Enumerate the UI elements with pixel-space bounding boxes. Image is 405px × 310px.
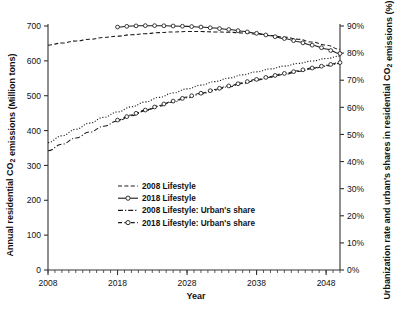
legend-label: 2018 Lifestyle: Urban's share (142, 219, 255, 228)
y-axis-left-tick-label: 600 (27, 56, 41, 66)
series-marker (171, 99, 175, 103)
series-marker (190, 25, 194, 29)
series-marker (199, 25, 203, 29)
series-marker (153, 105, 157, 109)
y-axis-right-tick-label: 0% (347, 265, 360, 275)
x-axis-title: Year (186, 291, 206, 301)
series-marker (273, 35, 277, 39)
y-axis-right-tick-label: 30% (347, 184, 364, 194)
series-marker (162, 102, 166, 106)
series-marker (199, 91, 203, 95)
series-marker (181, 96, 185, 100)
y-axis-right-tick-label: 80% (347, 48, 364, 58)
y-axis-left-tick-label: 100 (27, 230, 41, 240)
series-marker (181, 24, 185, 28)
series-marker (125, 24, 129, 28)
series-marker (320, 46, 324, 50)
legend-marker-sample (126, 221, 130, 225)
series-marker (116, 118, 120, 122)
x-tick-label: 2018 (108, 278, 127, 288)
series-marker (190, 94, 194, 98)
y-axis-left-tick-label: 0 (36, 265, 41, 275)
legend-label: 2008 Lifestyle (142, 182, 196, 191)
series-marker (282, 72, 286, 76)
y-axis-left-tick-label: 500 (27, 91, 41, 101)
y-axis-right-tick-label: 20% (347, 211, 364, 221)
series-marker (255, 78, 259, 82)
y-axis-right-tick-label: 10% (347, 238, 364, 248)
y-axis-right-tick-label: 60% (347, 103, 364, 113)
emissions-urbanization-line-chart: 20082018202820382048 0100200300400500600… (0, 0, 405, 310)
series-marker (208, 89, 212, 93)
series-marker (218, 27, 222, 31)
y-axis-left-tick-label: 400 (27, 126, 41, 136)
series-marker (218, 86, 222, 90)
y-axis-left-tick-label: 200 (27, 195, 41, 205)
series-marker (162, 24, 166, 28)
series-marker (208, 26, 212, 30)
series-marker (153, 24, 157, 28)
x-tick-label: 2008 (39, 278, 58, 288)
y-axis-left-tick-label: 300 (27, 161, 41, 171)
y-axis-left-tick-label: 700 (27, 21, 41, 31)
series-marker (227, 28, 231, 32)
series-marker (292, 70, 296, 74)
series-marker (264, 76, 268, 80)
y-axis-right-tick-label: 90% (347, 21, 364, 31)
y-axis-right-tick-label: 40% (347, 157, 364, 167)
series-marker (301, 68, 305, 72)
series-marker (245, 30, 249, 34)
series-marker (125, 115, 129, 119)
chart-background (0, 0, 405, 310)
series-marker (236, 82, 240, 86)
series-marker (282, 37, 286, 41)
x-tick-label: 2048 (317, 278, 336, 288)
legend-marker-sample (126, 196, 130, 200)
series-marker (273, 74, 277, 78)
series-marker (264, 33, 268, 37)
series-marker (310, 43, 314, 47)
series-marker (320, 64, 324, 68)
chart-figure: 20082018202820382048 0100200300400500600… (0, 0, 405, 310)
series-marker (134, 24, 138, 28)
series-marker (227, 84, 231, 88)
series-marker (255, 31, 259, 35)
x-tick-label: 2028 (178, 278, 197, 288)
series-marker (245, 80, 249, 84)
y-axis-right-tick-label: 50% (347, 130, 364, 140)
series-marker (301, 41, 305, 45)
series-marker (171, 24, 175, 28)
series-marker (329, 63, 333, 67)
series-marker (143, 108, 147, 112)
x-tick-label: 2038 (247, 278, 266, 288)
series-marker (292, 39, 296, 43)
series-marker (236, 29, 240, 33)
series-marker (329, 49, 333, 53)
series-marker (116, 25, 120, 29)
series-marker (310, 66, 314, 70)
y-axis-right-tick-label: 70% (347, 75, 364, 85)
series-marker (134, 111, 138, 115)
series-marker (338, 61, 342, 65)
series-marker (143, 24, 147, 28)
legend-label: 2018 Lifestyle (142, 194, 196, 203)
legend-label: 2008 Lifestyle: Urban's share (142, 206, 255, 215)
series-marker (338, 52, 342, 56)
